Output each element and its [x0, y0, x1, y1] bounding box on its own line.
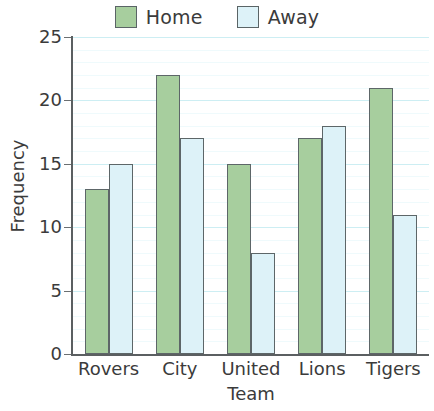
y-axis-tick-label: 0 [16, 345, 62, 363]
y-axis-tick [64, 37, 71, 38]
y-axis-tick [64, 164, 71, 165]
x-axis-label-rovers: Rovers [73, 359, 144, 379]
bar-tigers-home [369, 88, 393, 354]
y-axis-tick-label: 25 [16, 28, 62, 46]
bar-rovers-away [109, 164, 133, 354]
legend-label-home: Home [146, 8, 203, 27]
y-axis-tick [64, 354, 71, 355]
y-axis-title: Frequency [8, 106, 28, 266]
y-axis-tick [64, 227, 71, 228]
bar-lions-home [298, 138, 322, 354]
legend-label-away: Away [268, 8, 319, 27]
y-axis-tick [64, 100, 71, 101]
bar-tigers-away [393, 215, 417, 354]
bar-city-home [156, 75, 180, 354]
bar-lions-away [322, 126, 346, 354]
chart-legend: Home Away [0, 2, 434, 32]
x-axis-category-labels: RoversCityUnitedLionsTigers [73, 359, 429, 383]
bar-united-away [251, 253, 275, 354]
legend-swatch-home [115, 6, 137, 28]
x-axis-label-tigers: Tigers [358, 359, 429, 379]
bar-united-home [227, 164, 251, 354]
legend-entry-home: Home [115, 6, 203, 28]
bars-layer [73, 37, 429, 354]
y-axis-tick-label: 5 [16, 282, 62, 300]
y-axis-line [71, 36, 73, 355]
x-axis-title: Team [73, 384, 429, 404]
x-axis-line [71, 354, 429, 356]
legend-entry-away: Away [237, 6, 319, 28]
bar-chart: Home Away 0510152025 RoversCityUnitedLio… [0, 0, 434, 411]
x-axis-label-city: City [144, 359, 215, 379]
bar-city-away [180, 138, 204, 354]
x-axis-label-lions: Lions [287, 359, 358, 379]
bar-rovers-home [85, 189, 109, 354]
x-axis-label-united: United [215, 359, 286, 379]
y-axis-tick [64, 291, 71, 292]
legend-swatch-away [237, 6, 259, 28]
